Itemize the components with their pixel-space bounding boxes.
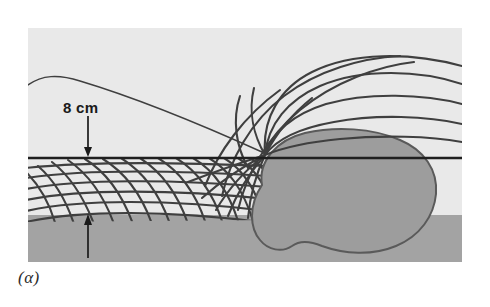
panel-label: (α) — [18, 268, 40, 288]
dimension-label: 8 cm — [63, 99, 98, 116]
figure-page: 8 cm (α) — [0, 0, 490, 307]
figure-canvas — [0, 0, 490, 307]
boulder-shape — [252, 129, 436, 253]
